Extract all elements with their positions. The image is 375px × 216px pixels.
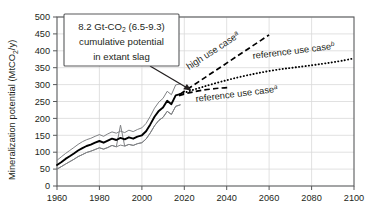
y-tick-label: 150 bbox=[35, 131, 50, 141]
x-tick-label: 1980 bbox=[89, 193, 109, 203]
high-use-case-label: high use casea bbox=[184, 29, 242, 72]
callout-line-1a: 8.2 Gt-CO bbox=[78, 21, 122, 32]
historical-series bbox=[57, 84, 180, 169]
historical-mid-line bbox=[57, 94, 180, 165]
callout-arrow bbox=[150, 66, 192, 91]
y-axis-title: Mineralization potential (MtCO2/y) bbox=[6, 40, 19, 180]
y-tick-label: 100 bbox=[35, 147, 50, 157]
callout-line-1b: (6.5-9.3) bbox=[126, 21, 165, 32]
callout-line-2: cumulative potential bbox=[79, 36, 164, 47]
x-tick-label: 2080 bbox=[301, 193, 321, 203]
reference-use-case-b-label-text: reference use case bbox=[252, 41, 332, 61]
reference-use-case-b-label: reference use caseb bbox=[252, 40, 336, 61]
historical-lower-bound bbox=[57, 105, 180, 169]
x-tick-label: 2060 bbox=[259, 193, 279, 203]
x-tick-label: 2040 bbox=[216, 193, 236, 203]
x-tick-label: 1960 bbox=[47, 193, 67, 203]
x-axis-ticks bbox=[57, 186, 354, 190]
y-tick-label: 0 bbox=[45, 181, 50, 191]
y-axis-title-main: Mineralization potential (MtCO bbox=[6, 54, 17, 180]
y-tick-label: 450 bbox=[35, 29, 50, 39]
x-tick-labels: 1960 1980 2000 2020 2040 2060 2080 2100 bbox=[47, 193, 364, 203]
callout-annotation: 8.2 Gt-CO2 (6.5-9.3) cumulative potentia… bbox=[64, 14, 179, 66]
y-tick-label: 400 bbox=[35, 46, 50, 56]
high-use-case-label-text: high use case bbox=[185, 32, 239, 72]
reference-use-case-a-label-sup: a bbox=[273, 83, 278, 90]
callout-line-3: in extant slag bbox=[93, 51, 150, 62]
figure-container: 500 450 400 350 300 250 200 150 100 50 0… bbox=[0, 0, 375, 216]
y-axis-ticks bbox=[53, 17, 57, 186]
y-tick-label: 200 bbox=[35, 114, 50, 124]
y-tick-label: 50 bbox=[40, 164, 50, 174]
y-tick-label: 300 bbox=[35, 80, 50, 90]
x-tick-label: 2100 bbox=[344, 193, 364, 203]
x-tick-label: 2020 bbox=[174, 193, 194, 203]
y-axis-title-tail: /y) bbox=[6, 40, 17, 50]
y-tick-label: 250 bbox=[35, 97, 50, 107]
reference-use-case-a-label-text: reference use case bbox=[195, 84, 275, 104]
y-tick-label: 350 bbox=[35, 63, 50, 73]
y-tick-label: 500 bbox=[35, 12, 50, 22]
mineralization-potential-chart: 500 450 400 350 300 250 200 150 100 50 0… bbox=[0, 0, 375, 216]
reference-use-case-b-label-sup: b bbox=[330, 40, 335, 47]
callout-line-1: 8.2 Gt-CO2 (6.5-9.3) bbox=[78, 21, 164, 33]
historical-upper-bound bbox=[57, 84, 180, 160]
svg-text:Mineralization potential (MtCO: Mineralization potential (MtCO2/y) bbox=[6, 40, 19, 180]
x-tick-label: 2000 bbox=[132, 193, 152, 203]
reference-use-case-a-label: reference use casea bbox=[195, 83, 279, 104]
y-tick-labels: 500 450 400 350 300 250 200 150 100 50 0 bbox=[35, 12, 50, 191]
